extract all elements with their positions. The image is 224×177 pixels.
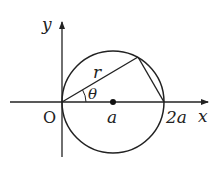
far-point-label: 2a bbox=[165, 107, 187, 127]
center-point bbox=[110, 99, 116, 105]
origin-label: O bbox=[43, 108, 56, 127]
angle-label: θ bbox=[88, 85, 97, 103]
chord-length-label: r bbox=[93, 62, 102, 82]
y-axis-label: y bbox=[41, 14, 52, 34]
angle-arc bbox=[83, 90, 86, 102]
center-label: a bbox=[107, 107, 117, 127]
diagram-canvas: y x O a 2a r θ bbox=[0, 0, 224, 177]
geometry-figure: y x O a 2a r θ bbox=[0, 0, 224, 177]
x-axis-label: x bbox=[198, 106, 208, 126]
chord-to-2a bbox=[138, 57, 164, 102]
